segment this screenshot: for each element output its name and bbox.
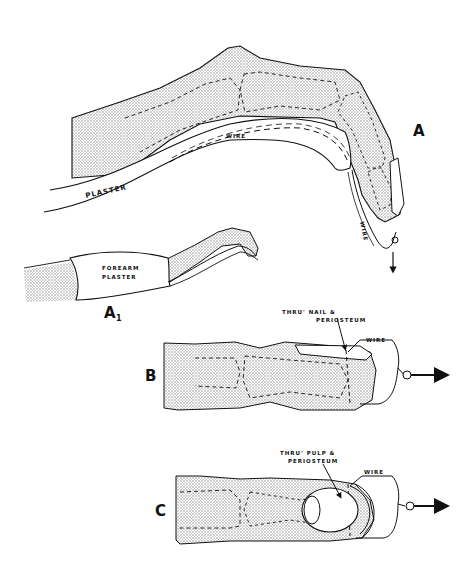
panel-b: THRU' NAIL & PERIOSTEUM WIRE B [145,309,446,410]
b-annotation-line2: PERIOSTEUM [316,317,366,323]
panel-label-c: C [155,502,166,520]
wire-label-top: WIRE [226,133,246,139]
b-annotation-line1: THRU' NAIL & [282,309,336,315]
traction-illustration: PLASTER WIRE WIRE A FOREARM PLASTER A 1 … [0,0,471,567]
panel-c: THRU' PULP & PERIOSTEUM WIRE C [155,450,446,544]
c-annotation-line1: THRU' PULP & [280,450,335,456]
forearm-plaster-label: PLASTER [102,274,137,280]
panel-label-a1: A [104,304,116,322]
panel-label-b: B [145,367,156,385]
c-annotation-line2: PERIOSTEUM [288,458,338,464]
wire-label-tip: WIRE [359,221,369,242]
b-wire-label: WIRE [366,337,386,343]
c-wire-label: WIRE [364,469,384,475]
panel-label-a1-subscript: 1 [116,314,122,323]
forearm-label: FOREARM [102,265,139,271]
panel-label-a: A [413,122,425,140]
panel-a1: FOREARM PLASTER A 1 [24,228,258,323]
